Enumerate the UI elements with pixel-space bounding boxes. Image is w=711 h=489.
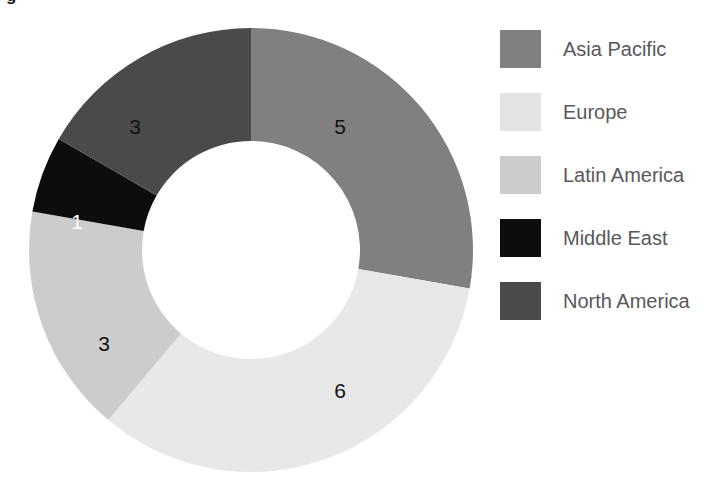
slice-value-label-middle-east: 1 [71,210,83,233]
legend-item-middle-east[interactable]: Middle East [500,217,668,259]
legend-item-north-america[interactable]: North America [500,280,690,322]
legend-item-latin-america[interactable]: Latin America [500,154,684,196]
legend-swatch-icon [500,219,541,257]
donut-slice-asia-pacific[interactable] [251,28,473,289]
legend-label: Asia Pacific [563,39,666,59]
donut-slice-europe[interactable] [108,269,469,472]
legend-label: Middle East [563,228,668,248]
legend-swatch-icon [500,93,541,131]
slice-value-label-latin-america: 3 [98,332,110,355]
chart-legend: Asia PacificEuropeLatin AmericaMiddle Ea… [500,14,711,314]
legend-label: Europe [563,102,628,122]
legend-item-europe[interactable]: Europe [500,91,628,133]
donut-chart: 56313 [0,0,500,489]
slice-value-label-asia-pacific: 5 [334,115,346,138]
legend-swatch-icon [500,30,541,68]
legend-item-asia-pacific[interactable]: Asia Pacific [500,28,666,70]
donut-slices [29,28,473,472]
slice-value-label-europe: 6 [334,379,346,402]
legend-swatch-icon [500,282,541,320]
legend-swatch-icon [500,156,541,194]
figure-root: g 56313 Asia PacificEuropeLatin AmericaM… [0,0,711,489]
legend-label: Latin America [563,165,684,185]
legend-label: North America [563,291,690,311]
slice-value-label-north-america: 3 [129,115,141,138]
